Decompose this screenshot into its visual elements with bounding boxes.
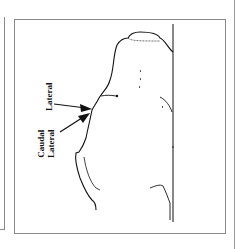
cheek-curve: [160, 97, 172, 112]
dotted-marks: [139, 70, 174, 148]
ear-inner: [84, 157, 100, 190]
anatomical-sketch: [0, 0, 237, 249]
label-caudal-line1: Caudal: [36, 130, 46, 159]
label-lateral: Lateral: [44, 83, 54, 112]
arrow-caudal-lateral-icon: [60, 113, 90, 132]
tip-outline: [128, 38, 160, 41]
jaw-curve: [150, 185, 170, 220]
label-caudal-line2: Lateral: [46, 130, 56, 159]
inner-fold: [101, 95, 116, 96]
body-outline: [76, 32, 173, 210]
arrow-lateral-icon: [54, 104, 92, 112]
label-caudal-lateral: Caudal Lateral: [36, 130, 56, 159]
